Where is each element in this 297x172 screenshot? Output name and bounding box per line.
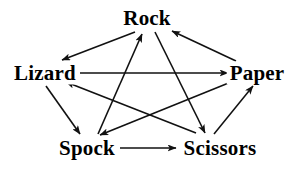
edge-scissors-decapitates-lizard: [66, 82, 196, 133]
edge-rock-crushes-scissors: [155, 32, 205, 133]
node-label-paper: Paper: [227, 62, 288, 85]
edge-rock-crushes-lizard: [62, 32, 135, 60]
node-label-scissors: Scissors: [181, 137, 260, 160]
rps-lizard-spock-diagram: RockLizardPaperSpockScissors: [0, 0, 297, 172]
edge-scissors-cuts-paper: [214, 86, 253, 134]
node-label-rock: Rock: [120, 7, 173, 30]
edge-paper-disproves-spock: [100, 80, 236, 135]
edge-lizard-poisons-spock: [46, 86, 80, 134]
node-label-lizard: Lizard: [11, 62, 79, 85]
node-label-spock: Spock: [56, 137, 118, 160]
edge-spock-vaporizes-rock: [98, 34, 142, 134]
edge-paper-covers-rock: [172, 31, 236, 61]
edges-group: [46, 31, 253, 148]
